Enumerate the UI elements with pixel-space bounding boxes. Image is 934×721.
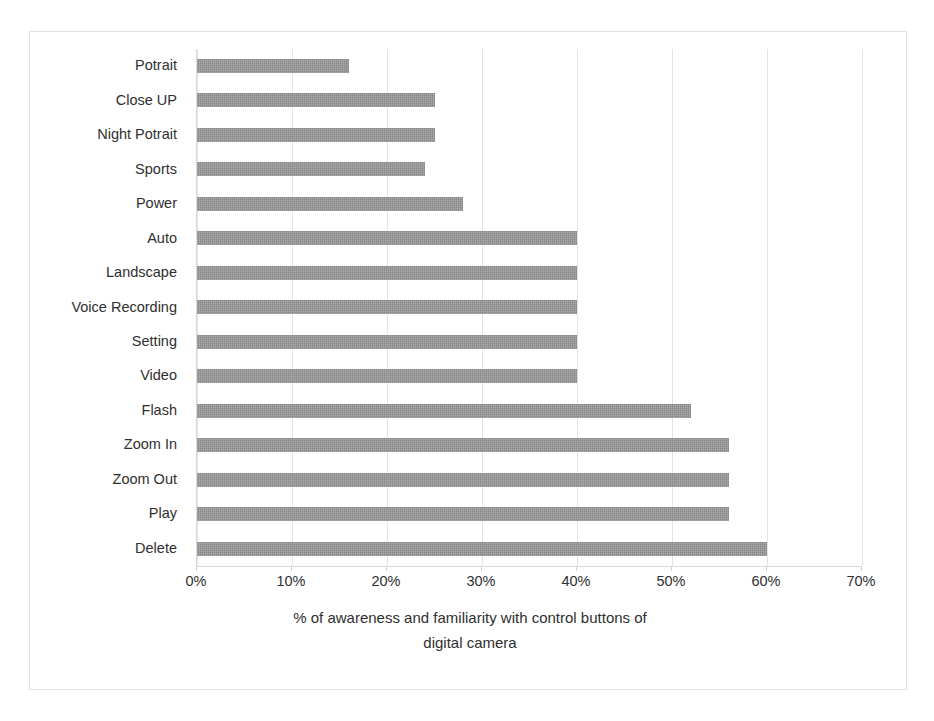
bar-row (197, 49, 862, 83)
x-axis-title-line: % of awareness and familiarity with cont… (140, 605, 800, 630)
y-axis-label: Play (27, 506, 177, 520)
y-axis-label: Sports (27, 162, 177, 176)
chart-figure: PotraitClose UPNight PotraitSportsPowerA… (29, 31, 907, 690)
y-axis-label: Potrait (27, 58, 177, 72)
y-axis-label: Delete (27, 541, 177, 555)
bar-row (197, 325, 862, 359)
bar-row (197, 463, 862, 497)
chart-plot-wrapper: PotraitClose UPNight PotraitSportsPowerA… (30, 32, 906, 689)
bar-row (197, 256, 862, 290)
bar-row (197, 359, 862, 393)
x-axis-tick-label: 50% (641, 573, 701, 589)
bar[interactable] (197, 59, 349, 73)
y-axis-label: Voice Recording (27, 300, 177, 314)
gridline-70 (862, 49, 863, 566)
x-axis-tick-mark (671, 566, 672, 571)
y-axis-label: Setting (27, 334, 177, 348)
y-axis-label: Landscape (27, 265, 177, 279)
bar[interactable] (197, 369, 577, 383)
y-axis-label: Power (27, 196, 177, 210)
bar-row (197, 497, 862, 531)
x-axis-tick-mark (386, 566, 387, 571)
bar-row (197, 152, 862, 186)
y-axis-label: Close UP (27, 93, 177, 107)
x-axis-tick-label: 10% (261, 573, 321, 589)
bar-row (197, 83, 862, 117)
bar[interactable] (197, 93, 435, 107)
x-axis-title-line: digital camera (140, 630, 800, 655)
bar[interactable] (197, 197, 463, 211)
x-axis-tick-label: 20% (356, 573, 416, 589)
y-axis-category-labels: PotraitClose UPNight PotraitSportsPowerA… (30, 49, 187, 566)
bar-row (197, 428, 862, 462)
bar-row (197, 187, 862, 221)
bar[interactable] (197, 231, 577, 245)
bar[interactable] (197, 404, 691, 418)
x-axis-tick-mark (576, 566, 577, 571)
y-axis-label: Flash (27, 403, 177, 417)
bar[interactable] (197, 128, 435, 142)
y-axis-label: Auto (27, 231, 177, 245)
bar-row (197, 394, 862, 428)
bar[interactable] (197, 542, 767, 556)
bar[interactable] (197, 507, 729, 521)
y-axis-label: Video (27, 368, 177, 382)
bar[interactable] (197, 300, 577, 314)
bar[interactable] (197, 162, 425, 176)
bar[interactable] (197, 266, 577, 280)
bar-row (197, 532, 862, 566)
y-axis-label: Zoom Out (27, 472, 177, 486)
bar-row (197, 221, 862, 255)
x-axis-tick-label: 60% (736, 573, 796, 589)
bar[interactable] (197, 335, 577, 349)
x-axis-tick-mark (196, 566, 197, 571)
x-axis-tick-mark (766, 566, 767, 571)
x-axis-tick-mark (861, 566, 862, 571)
x-axis-title: % of awareness and familiarity with cont… (140, 605, 800, 655)
x-axis-tick-mark (481, 566, 482, 571)
bar[interactable] (197, 438, 729, 452)
y-axis-label: Zoom In (27, 437, 177, 451)
x-axis-tick-label: 70% (831, 573, 891, 589)
x-axis-tick-label: 40% (546, 573, 606, 589)
x-axis-tick-label: 30% (451, 573, 511, 589)
bar-row (197, 290, 862, 324)
bar-row (197, 118, 862, 152)
plot-area (196, 49, 862, 566)
bar[interactable] (197, 473, 729, 487)
x-axis-tick-label: 0% (166, 573, 226, 589)
x-axis-line (196, 566, 862, 567)
y-axis-label: Night Potrait (27, 127, 177, 141)
x-axis-tick-mark (291, 566, 292, 571)
